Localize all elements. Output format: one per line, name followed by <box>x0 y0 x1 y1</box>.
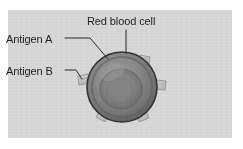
label-red-blood-cell: Red blood cell <box>87 15 155 27</box>
leader-line-antigen-a <box>65 38 108 59</box>
label-antigen-b: Antigen B <box>6 65 53 77</box>
screenshot-root: Red blood cell Antigen A Antigen B <box>0 0 243 149</box>
red-blood-cell <box>87 52 157 122</box>
label-antigen-a: Antigen A <box>6 33 52 45</box>
